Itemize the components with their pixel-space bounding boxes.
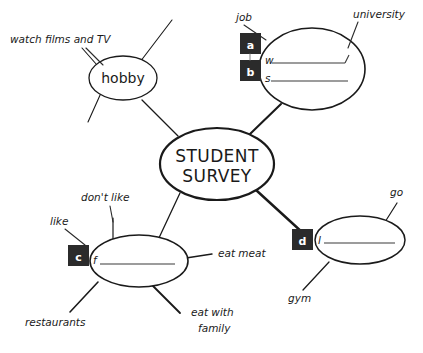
node-student-survey[interactable]: STUDENT SURVEY: [160, 128, 274, 200]
branch-hobby-to-blank-top: [140, 20, 172, 62]
restaurants-text: restaurants: [25, 316, 86, 328]
branch-center-to-food: [158, 193, 180, 240]
go-text: go: [390, 186, 403, 198]
label-university: university: [348, 8, 406, 48]
label-gym: gym: [288, 292, 311, 304]
gap-box-c[interactable]: c: [68, 245, 89, 266]
gym-text: gym: [288, 292, 311, 304]
branch-center-to-jobstudy: [250, 104, 281, 134]
job-text: job: [234, 11, 252, 23]
branch-food-to-eatwithfamily: [152, 285, 180, 313]
branch-hobby-to-blank-bottom: [88, 93, 101, 122]
gap-box-d[interactable]: d: [292, 229, 313, 250]
branch-food-to-restaurants: [70, 282, 98, 312]
mind-map-diagram: STUDENT SURVEY hobby watch films and TV …: [0, 0, 423, 353]
label-watch-films-and-tv: watch films and TV: [10, 33, 111, 65]
node-food[interactable]: f: [70, 218, 212, 313]
center-title-line2: SURVEY: [182, 166, 251, 186]
gap-a-stem: w: [265, 54, 274, 66]
watch-films-and-tv-text: watch films and TV: [10, 33, 111, 45]
hobby-label: hobby: [101, 70, 145, 86]
label-go: go: [390, 186, 403, 198]
center-title-line1: STUDENT: [175, 146, 259, 166]
gap-d-stem: l: [318, 234, 321, 246]
branch-center-to-leisure: [256, 190, 303, 233]
label-dont-like: don't like: [81, 191, 129, 222]
gap-c-letter: c: [75, 251, 82, 264]
like-text: like: [50, 215, 68, 227]
node-job-study[interactable]: w s: [259, 28, 365, 110]
label-eat-with-family: eat with family: [191, 306, 234, 334]
node-leisure[interactable]: l: [303, 203, 405, 290]
eat-meat-text: eat meat: [218, 247, 266, 259]
eat-with-family-line1: eat with: [191, 306, 234, 318]
gap-b-letter: b: [247, 66, 255, 79]
gap-a-letter: a: [247, 39, 254, 52]
gap-b-stem: s: [265, 72, 271, 84]
dont-like-pointer: [110, 206, 113, 222]
branch-center-to-hobby: [142, 100, 178, 136]
branch-leisure-to-gym: [303, 262, 329, 290]
dont-like-text: don't like: [81, 191, 129, 203]
eat-with-family-line2: family: [198, 322, 231, 334]
branch-leisure-to-go: [385, 203, 397, 222]
like-pointer: [65, 229, 85, 245]
gap-d-letter: d: [299, 235, 307, 248]
food-ellipse: [90, 235, 188, 287]
label-eat-meat: eat meat: [218, 247, 266, 259]
label-restaurants: restaurants: [25, 316, 86, 328]
label-like: like: [50, 215, 85, 245]
jobstudy-ellipse: [259, 28, 365, 110]
leisure-ellipse: [315, 216, 405, 264]
gap-box-b[interactable]: b: [240, 60, 261, 81]
university-text: university: [353, 8, 406, 20]
branch-food-to-eatmeat: [186, 254, 212, 258]
gap-box-a[interactable]: a: [240, 33, 261, 54]
